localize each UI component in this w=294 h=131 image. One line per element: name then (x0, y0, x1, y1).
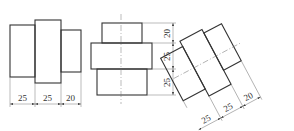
block-middle (180, 30, 231, 96)
dimension-label: 20 (66, 93, 76, 103)
block-left (10, 25, 35, 77)
figure-vertical-view: 20 25 25 (91, 14, 176, 104)
extension-line (183, 101, 187, 108)
dimension-label: 25 (222, 101, 235, 114)
block-left (161, 47, 206, 101)
dimension-label: 20 (242, 90, 255, 103)
dimension-label: 25 (200, 112, 213, 125)
technical-drawing: 25 25 20 20 25 25 25 (0, 0, 294, 131)
block-bottom (97, 69, 147, 95)
block-top (102, 23, 142, 43)
block-middle (35, 20, 61, 83)
block-middle (91, 43, 152, 69)
block-right (204, 24, 241, 70)
extension-line (209, 96, 222, 121)
dimension-label: 20 (162, 29, 172, 39)
dimension-label: 25 (43, 93, 53, 103)
dimension-label: 25 (18, 93, 28, 103)
center-line (164, 42, 242, 83)
block-right (61, 30, 81, 72)
figure-front-view: 25 25 20 (10, 20, 81, 107)
